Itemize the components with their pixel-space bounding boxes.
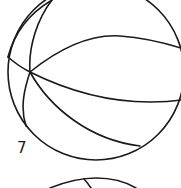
- figure-number-label: 7: [17, 141, 27, 156]
- figure-canvas: [0, 0, 181, 188]
- middle-segment-line: [30, 72, 181, 102]
- left-segment-line: [8, 57, 30, 72]
- sphere-figure-7: [8, 0, 181, 160]
- upper-segment-line: [30, 36, 181, 72]
- next-sphere-outline-top: [50, 178, 136, 188]
- lower-segment-line: [30, 72, 140, 146]
- next-figure-partial: [50, 178, 136, 188]
- next-sphere-segment-line: [84, 179, 91, 188]
